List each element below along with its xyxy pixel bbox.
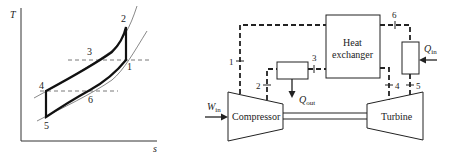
- point-label-1: 1: [127, 61, 132, 72]
- state-label-1: 1: [229, 57, 234, 67]
- turbine-label: Turbine: [381, 111, 413, 122]
- state-label-4: 4: [395, 81, 400, 91]
- heat-in-label: Qin: [424, 43, 437, 56]
- flow-lines: [240, 25, 410, 100]
- state-label-2: 2: [256, 81, 261, 91]
- schematic: Compressor Turbine Heat exchanger: [205, 10, 437, 141]
- point-label-2: 2: [121, 13, 126, 24]
- ts-diagram: T s 2 1 3 4 6 5: [10, 6, 157, 154]
- state-label-5: 5: [416, 81, 421, 91]
- state-ticks: [236, 21, 414, 85]
- point-label-6: 6: [88, 94, 93, 105]
- t-axis-label: T: [10, 9, 17, 20]
- state-label-6: 6: [392, 10, 397, 20]
- heat-out-label: Qout: [299, 94, 315, 107]
- heat-in-arrow-icon: [419, 57, 437, 64]
- figure: T s 2 1 3 4 6 5 Compressor Turbine Heat …: [0, 0, 452, 162]
- cooler: [277, 62, 308, 79]
- heater: [402, 42, 419, 74]
- heat-out-arrow-icon: [289, 79, 296, 98]
- point-label-4: 4: [39, 80, 44, 91]
- heat-exchanger-label-1: Heat: [343, 37, 362, 48]
- work-in-label: Win: [207, 101, 221, 114]
- point-label-5: 5: [44, 120, 49, 131]
- low-pressure-isobar: [37, 31, 147, 121]
- work-in-arrow-icon: [205, 114, 228, 121]
- point-label-3: 3: [87, 46, 92, 57]
- heat-exchanger-label-2: exchanger: [332, 49, 374, 60]
- s-axis-label: s: [153, 143, 157, 154]
- state-label-3: 3: [312, 53, 317, 63]
- flow-4: [380, 68, 389, 100]
- cycle-path: [46, 27, 126, 117]
- compressor-label: Compressor: [232, 111, 281, 122]
